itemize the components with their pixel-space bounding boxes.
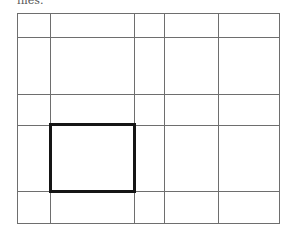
grid-column-line xyxy=(218,13,219,224)
grid-column-line xyxy=(17,13,18,224)
grid-row-line xyxy=(17,223,280,224)
grid-row-line xyxy=(17,37,280,38)
grid-column-line xyxy=(164,13,165,224)
grid-row-line xyxy=(17,13,280,14)
grid-diagram xyxy=(0,0,293,237)
grid-column-line xyxy=(279,13,280,224)
highlighted-cell xyxy=(49,123,136,193)
grid-row-line xyxy=(17,94,280,95)
